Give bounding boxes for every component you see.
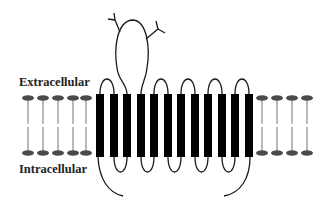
lipid-bilayer-right — [256, 95, 313, 156]
glycosylation-branch-left — [108, 13, 120, 32]
n-terminus-tail — [98, 157, 123, 196]
loop-2-3 — [114, 157, 127, 172]
lipid-head-top — [271, 95, 283, 101]
helix-4 — [137, 94, 145, 157]
extracellular-label: Extracellular — [19, 76, 90, 89]
lipid-left-5 — [80, 95, 92, 156]
lipid-right-4 — [301, 95, 313, 156]
transmembrane-helices — [96, 94, 253, 157]
lipid-head-bottom — [67, 150, 79, 156]
lipid-head-top — [37, 95, 49, 101]
intracellular-label: Intracellular — [19, 163, 87, 176]
lipid-head-top — [52, 95, 64, 101]
helix-3 — [123, 94, 131, 157]
lipid-head-bottom — [52, 150, 64, 156]
lipid-head-top — [22, 95, 34, 101]
helix-6 — [164, 94, 172, 157]
helix-7 — [177, 94, 185, 157]
loop-6-7 — [168, 157, 181, 172]
lipid-head-bottom — [256, 150, 268, 156]
helix-8 — [191, 94, 199, 157]
lipid-left-4 — [67, 95, 79, 156]
lipid-head-bottom — [22, 150, 34, 156]
loop-5-6 — [154, 79, 168, 94]
helix-11 — [231, 94, 239, 157]
lipid-left-2 — [37, 95, 49, 156]
lipid-head-bottom — [286, 150, 298, 156]
large-loop-chain — [116, 20, 148, 94]
loop-10-11 — [222, 157, 235, 172]
diagram-canvas — [0, 0, 330, 210]
helix-12 — [245, 94, 253, 157]
lipid-head-bottom — [80, 150, 92, 156]
loop-9-10 — [208, 79, 222, 94]
lipid-right-1 — [256, 95, 268, 156]
lipid-head-top — [67, 95, 79, 101]
lipid-head-bottom — [271, 150, 283, 156]
loop-1-2 — [100, 79, 114, 94]
helix-5 — [150, 94, 158, 157]
membrane-protein-diagram: Extracellular Intracellular — [0, 0, 330, 210]
lipid-left-3 — [52, 95, 64, 156]
helix-2 — [110, 94, 118, 157]
loop-4-5 — [141, 157, 154, 172]
helix-9 — [204, 94, 212, 157]
lipid-head-top — [286, 95, 298, 101]
loop-11-12 — [235, 79, 249, 94]
lipid-head-top — [256, 95, 268, 101]
helix-10 — [218, 94, 226, 157]
helix-1 — [96, 94, 104, 157]
lipid-head-bottom — [37, 150, 49, 156]
glycosylation-branch-right — [146, 21, 165, 39]
lipid-right-3 — [286, 95, 298, 156]
loop-8-9 — [195, 157, 208, 172]
lipid-left-1 — [22, 95, 34, 156]
lipid-right-2 — [271, 95, 283, 156]
lipid-head-top — [80, 95, 92, 101]
lipid-head-top — [301, 95, 313, 101]
loop-7-8 — [181, 79, 195, 94]
c-terminus-tail — [224, 157, 250, 196]
intracellular-loops — [98, 157, 250, 196]
lipid-bilayer-left — [22, 95, 92, 156]
lipid-head-bottom — [301, 150, 313, 156]
